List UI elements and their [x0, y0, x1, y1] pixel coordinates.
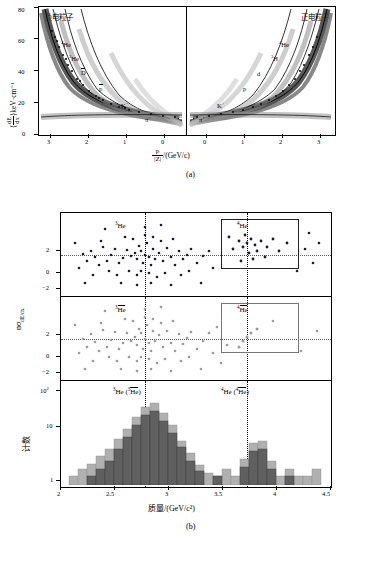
- panel-b-middle-plot: 3He 4He: [60, 296, 332, 382]
- label-piplus-right: π+: [199, 115, 205, 123]
- ytick-b1-0: 0: [46, 268, 49, 275]
- label-kminus-left: K−: [121, 101, 128, 109]
- label-he3-left: 3He: [69, 54, 79, 62]
- caption-a: (a): [186, 170, 195, 179]
- label-h3-right: 3H: [271, 54, 278, 62]
- label-piminus-left: π−: [145, 115, 151, 123]
- xtick-a-left-1: 1: [123, 138, 126, 145]
- label-he4-right: 4He: [279, 40, 289, 48]
- ytick-a-80: 80: [18, 6, 25, 13]
- label-he4-left: 4He: [61, 40, 71, 48]
- label-pbar-left: p: [99, 85, 102, 92]
- ytick-b3-100: 102: [40, 386, 49, 394]
- label-antihe3-middle: 3He: [115, 305, 126, 314]
- ylabel-unit: keV·cm⁻¹: [9, 82, 18, 112]
- figure-root: ⟨ dE dx ⟩keV·cm⁻¹ 负电粒子: [0, 0, 381, 567]
- ytick-a-40: 40: [18, 68, 25, 75]
- panel-a: ⟨ dE dx ⟩keV·cm⁻¹ 负电粒子: [0, 0, 381, 185]
- xtick-a-right-2: 2: [279, 138, 282, 145]
- ytick-b2-m2: −2: [42, 368, 49, 375]
- label-he4-bottom: 4He (4He): [221, 387, 249, 396]
- panel-b-bottom-plot: 3He (3He) 4He (4He): [60, 380, 332, 488]
- panel-b-bottom-bars: [61, 381, 329, 485]
- ylabel-den: dx: [14, 116, 21, 125]
- caption-b: (b): [186, 522, 195, 531]
- xtick-a-right-0: 0: [203, 138, 206, 145]
- panel-b: nσdE/dx 计数: [0, 190, 381, 567]
- xtick-b-2: 2: [57, 490, 60, 497]
- panel-b-top-points: [61, 213, 329, 295]
- label-he4-top: 4He: [237, 221, 248, 230]
- ytick-b1-m2: −2: [42, 284, 49, 291]
- panel-b3-ylabel: 计数: [20, 436, 31, 452]
- panel-a-left-curves: [39, 7, 185, 133]
- panel-b-ylabel: nσdE/dx: [14, 309, 25, 330]
- xtick-a-right-3: 3: [317, 138, 320, 145]
- xlabel-unit: /(GeV/c): [163, 151, 190, 160]
- label-dbar-left: D: [81, 69, 86, 76]
- xtick-a-left-0: 0: [161, 138, 164, 145]
- ytick-a-20: 20: [18, 99, 25, 106]
- panel-b-top-plot: 3He 4He: [60, 212, 332, 298]
- xtick-b-3: 3: [165, 490, 168, 497]
- ytick-b3-10: 10: [46, 422, 53, 429]
- label-antihe4-middle: 4He: [237, 305, 248, 314]
- panel-a-right-plot: 正电粒子: [186, 6, 336, 136]
- ytick-b1-2: 2: [46, 246, 49, 253]
- xtick-a-left-3: 3: [47, 138, 50, 145]
- label-d-right: d: [257, 70, 260, 77]
- label-kplus-right: K+: [217, 101, 224, 109]
- ytick-b2-2: 2: [46, 330, 49, 337]
- label-he3-top: 3He: [115, 221, 126, 230]
- ylabel-nsigma-sub: dE/dx: [19, 309, 25, 322]
- xtick-a-left-2: 2: [85, 138, 88, 145]
- label-p-right: p: [243, 85, 246, 92]
- xtick-b-35: 3.5: [214, 490, 222, 497]
- xtick-a-right-1: 1: [241, 138, 244, 145]
- ytick-a-0: 0: [22, 130, 25, 137]
- panel-a-left-plot: 负电粒子: [38, 6, 188, 136]
- ylabel-nsigma: nσ: [14, 322, 23, 330]
- ytick-a-60: 60: [18, 37, 25, 44]
- panel-a-xlabel: p |Z| /(GeV/c): [152, 148, 190, 164]
- label-he3-bottom: 3He (3He): [113, 387, 141, 396]
- xtick-b-45: 4.5: [322, 490, 330, 497]
- xtick-b-4: 4: [273, 490, 276, 497]
- panel-b-middle-points: [61, 297, 329, 379]
- ytick-b3-1: 1: [50, 476, 53, 483]
- xlabel-den: |Z|: [152, 156, 163, 163]
- xtick-b-25: 2.5: [106, 490, 114, 497]
- ytick-b2-0: 0: [46, 352, 49, 359]
- panel-b-xlabel: 质量/(GeV/c²): [148, 502, 195, 513]
